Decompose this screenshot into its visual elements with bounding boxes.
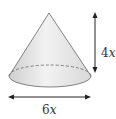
diameter-coef: 6 xyxy=(42,103,50,117)
diameter-var: x xyxy=(50,103,57,117)
cone-diagram xyxy=(0,0,116,119)
diameter-arrow xyxy=(8,95,91,100)
height-var: x xyxy=(109,46,116,60)
diameter-label: 6x xyxy=(42,104,56,116)
height-coef: 4 xyxy=(101,46,109,60)
height-label: 4x xyxy=(101,47,115,59)
height-arrow xyxy=(93,12,98,73)
cone-shape xyxy=(9,13,91,87)
